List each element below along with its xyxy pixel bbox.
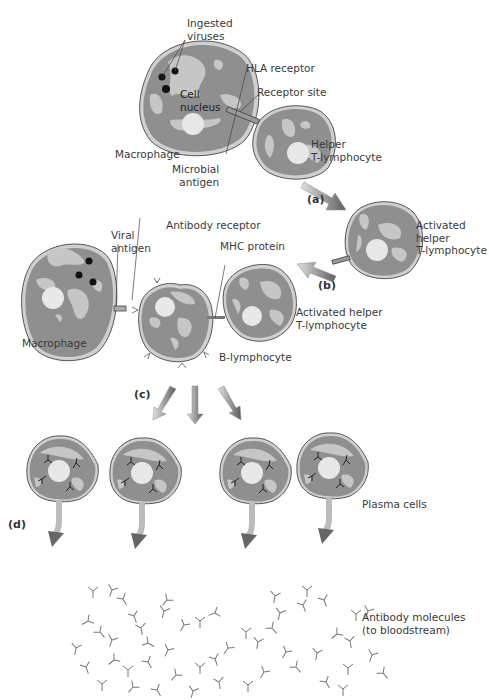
label-ingested-viruses: Ingested viruses <box>187 17 233 42</box>
antibody-icon <box>207 607 221 620</box>
plasma-cell <box>27 436 98 547</box>
label-plasma-cells: Plasma cells <box>362 498 427 511</box>
arrow-c3 <box>218 386 241 420</box>
antibody-icon <box>128 611 141 625</box>
label-antibody-receptor: Antibody receptor <box>166 219 260 232</box>
antibody-icon <box>195 663 205 674</box>
antibody-icon <box>123 666 133 677</box>
antibody-icon <box>186 686 199 699</box>
label-activated-helper-2: Activated helper T-lymphocyte <box>296 306 383 331</box>
antibody-icon <box>365 650 378 664</box>
antibody-icon <box>209 654 222 668</box>
label-microbial-antigen: Microbial antigen <box>172 163 219 188</box>
antibody-icon <box>142 656 156 671</box>
label-helper-t: Helper T-lymphocyte <box>311 138 382 163</box>
label-macrophage-mid: Macrophage <box>22 337 87 350</box>
antibody-icon <box>97 680 107 691</box>
plasma-cell <box>110 438 181 549</box>
b-lymphocyte-cell <box>132 278 225 368</box>
antibody-icon <box>161 644 175 658</box>
label-b-lymphocyte: B-lymphocyte <box>219 351 292 364</box>
antibody-icon <box>351 610 361 621</box>
antibody-icon <box>176 619 190 634</box>
antibody-icon <box>105 635 118 649</box>
antibody-icon <box>94 626 109 641</box>
plasma-cells-group <box>27 433 368 549</box>
immune-response-diagram <box>0 0 489 700</box>
step-label-b: (b) <box>318 279 336 292</box>
antibody-icon <box>70 643 82 656</box>
antibody-icon <box>88 587 98 598</box>
antibody-icon <box>269 591 281 604</box>
label-activated-helper-1: Activated helper T-lymphocyte <box>416 219 487 257</box>
antibody-icon <box>302 586 312 597</box>
antibody-icon <box>290 661 305 676</box>
arrow-c2 <box>187 386 203 424</box>
antibody-icon <box>195 617 205 628</box>
arrow-c1 <box>153 386 176 420</box>
antibody-icon <box>243 681 253 692</box>
antibody-icon <box>343 664 353 675</box>
plasma-cell <box>297 433 368 544</box>
antibody-icon <box>105 585 118 599</box>
label-receptor-site: Receptor site <box>257 86 326 99</box>
activated-helper-t-cell-1 <box>332 202 423 279</box>
antibody-icon <box>256 666 270 681</box>
label-hla-receptor: HLA receptor <box>246 62 315 75</box>
antibody-icon <box>318 595 331 609</box>
antibody-icon <box>278 646 292 661</box>
antibody-icon <box>135 623 147 636</box>
antibody-icon <box>297 600 310 614</box>
antibody-icon <box>252 637 264 650</box>
antibody-icon <box>220 642 235 657</box>
antibody-icon <box>151 684 165 699</box>
antibody-molecules-group <box>70 585 391 700</box>
antibody-icon <box>241 628 251 639</box>
antibody-icon <box>266 622 281 637</box>
antibody-icon <box>105 654 120 669</box>
antibody-icon <box>344 636 356 649</box>
step-label-c: (c) <box>134 388 151 401</box>
antibody-icon <box>311 648 323 661</box>
step-label-a: (a) <box>307 193 324 206</box>
antibody-icon <box>79 615 94 629</box>
antibody-icon <box>117 593 131 608</box>
antibody-icon <box>338 685 348 696</box>
step-label-d: (d) <box>8 518 26 531</box>
label-viral-antigen: Viral antigen <box>111 229 151 254</box>
antibody-icon <box>320 676 334 691</box>
activated-helper-t-cell-2 <box>223 264 296 341</box>
label-mhc-protein: MHC protein <box>220 240 285 253</box>
label-cell-nucleus: Cell nucleus <box>180 88 221 113</box>
antibody-icon <box>80 662 93 676</box>
antibody-icon <box>273 608 286 621</box>
plasma-cell <box>220 438 291 549</box>
antibody-icon <box>213 677 225 690</box>
label-macrophage-top: Macrophage <box>115 148 180 161</box>
antibody-icon <box>142 637 157 651</box>
label-antibody-molecules: Antibody molecules (to bloodstream) <box>362 611 465 636</box>
antibody-icon <box>328 628 343 643</box>
antibody-icon <box>168 669 183 684</box>
antibody-icon <box>125 681 140 696</box>
antibody-icon <box>157 606 170 619</box>
antibody-icon <box>377 667 392 682</box>
